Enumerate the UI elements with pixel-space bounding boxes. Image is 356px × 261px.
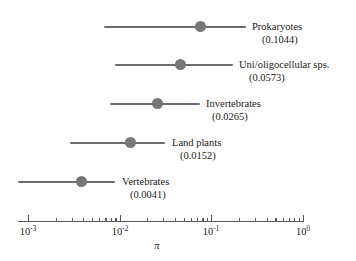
axis-tick-label: 10-3 bbox=[20, 226, 37, 237]
axis-tick-minor bbox=[299, 218, 300, 222]
range-line bbox=[115, 64, 233, 66]
tick-mantissa: 10 bbox=[20, 226, 31, 237]
series-label: Invertebrates bbox=[206, 98, 261, 109]
axis-tick-minor bbox=[267, 218, 268, 222]
series-label: Prokaryotes bbox=[252, 21, 302, 32]
axis-tick-minor bbox=[197, 218, 198, 222]
range-line bbox=[18, 181, 115, 183]
axis-tick-minor bbox=[275, 218, 276, 222]
data-point bbox=[152, 98, 163, 109]
axis-tick-minor bbox=[72, 218, 73, 222]
data-point bbox=[175, 59, 186, 70]
tick-mantissa: 10 bbox=[112, 226, 123, 237]
axis-tick-minor bbox=[191, 218, 192, 222]
tick-exponent: -1 bbox=[213, 225, 219, 233]
axis-tick-label: 10-2 bbox=[112, 226, 129, 237]
axis-tick-minor bbox=[202, 218, 203, 222]
data-point bbox=[195, 21, 206, 32]
series-value: (0.0152) bbox=[180, 150, 216, 161]
axis-tick-minor bbox=[255, 218, 256, 222]
axis-tick-label: 10-1 bbox=[203, 226, 220, 237]
axis-tick-label: 100 bbox=[296, 226, 310, 237]
tick-exponent: -2 bbox=[122, 225, 128, 233]
series-label: Vertebrates bbox=[122, 176, 169, 187]
axis-tick-minor bbox=[283, 218, 284, 222]
series-value: (0.0265) bbox=[212, 111, 248, 122]
axis-tick-minor bbox=[207, 218, 208, 222]
axis-tick-minor bbox=[83, 218, 84, 222]
axis-tick-minor bbox=[175, 218, 176, 222]
axis-line bbox=[18, 221, 304, 222]
tick-exponent: -3 bbox=[30, 225, 36, 233]
axis-tick-minor bbox=[289, 218, 290, 222]
axis-tick-minor bbox=[105, 218, 106, 222]
axis-tick-major bbox=[120, 215, 121, 222]
axis-tick-minor bbox=[163, 218, 164, 222]
range-line bbox=[70, 142, 165, 144]
axis-tick-minor bbox=[294, 218, 295, 222]
tick-exponent: 0 bbox=[306, 225, 310, 233]
axis-tick-minor bbox=[115, 218, 116, 222]
data-point bbox=[76, 176, 87, 187]
series-label: Uni/oligocellular sps. bbox=[239, 59, 329, 70]
axis-tick-major bbox=[303, 215, 304, 222]
axis-tick-minor bbox=[239, 218, 240, 222]
dot-plot-figure: Prokaryotes (0.1044) Uni/oligocellular s… bbox=[0, 0, 356, 261]
axis-tick-minor bbox=[99, 218, 100, 222]
data-point bbox=[125, 137, 136, 148]
series-label: Land plants bbox=[172, 137, 221, 148]
series-value: (0.0041) bbox=[130, 189, 166, 200]
axis-tick-minor bbox=[92, 218, 93, 222]
tick-mantissa: 10 bbox=[203, 226, 214, 237]
axis-tick-minor bbox=[147, 218, 148, 222]
axis-tick-major bbox=[211, 215, 212, 222]
axis-title: π bbox=[154, 240, 159, 251]
axis-tick-minor bbox=[56, 218, 57, 222]
range-line bbox=[104, 26, 246, 28]
tick-mantissa: 10 bbox=[296, 226, 307, 237]
axis-tick-minor bbox=[111, 218, 112, 222]
series-value: (0.0573) bbox=[249, 72, 285, 83]
series-value: (0.1044) bbox=[262, 34, 298, 45]
axis-tick-major bbox=[28, 215, 29, 222]
axis-tick-minor bbox=[184, 218, 185, 222]
